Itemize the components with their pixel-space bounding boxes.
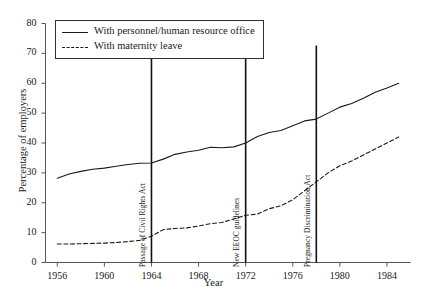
series-line <box>57 137 398 244</box>
event-marker-label: Passage of Civil Rights Act <box>138 183 147 267</box>
series-line <box>57 83 398 178</box>
y-tick-label: 10 <box>7 226 37 237</box>
legend-item: With personnel/human resource office <box>62 24 255 39</box>
legend-item: With maternity leave <box>62 39 255 54</box>
y-tick-label: 80 <box>7 17 37 28</box>
chart-series <box>57 83 398 244</box>
y-axis-title: Percentage of employers <box>17 71 28 211</box>
legend-line-solid-icon <box>62 27 88 37</box>
event-marker-label: New EEOC guidelines <box>232 197 241 266</box>
chart-legend: With personnel/human resource office Wit… <box>55 20 264 59</box>
legend-item-label: With maternity leave <box>94 41 182 52</box>
y-tick-label: 0 <box>7 256 37 267</box>
legend-line-dashed-icon <box>62 42 88 52</box>
chart-figure: 0102030405060708019561960196419681972197… <box>0 0 427 299</box>
x-axis-title: Year <box>0 277 427 288</box>
chart-axes <box>42 24 411 267</box>
event-marker-label: Pregnancy Discrimination Act <box>303 174 312 266</box>
y-tick-label: 70 <box>7 46 37 57</box>
legend-item-label: With personnel/human resource office <box>94 26 255 37</box>
